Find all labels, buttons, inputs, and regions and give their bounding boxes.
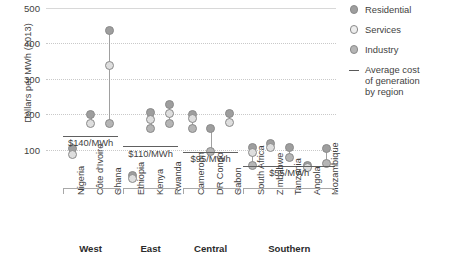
data-point [105, 26, 114, 35]
region-bracket [243, 188, 335, 194]
legend-label-services: Services [361, 24, 401, 35]
region-label: Central [183, 243, 238, 254]
legend-label-industry: Industry [361, 44, 398, 55]
residential-marker-icon [347, 4, 361, 14]
legend-item-services: Services [347, 24, 447, 35]
region-label: East [123, 243, 178, 254]
legend-item-industry: Industry [347, 44, 447, 55]
data-point [188, 124, 197, 133]
legend-label-average: Average cost of generation by region [361, 64, 420, 97]
legend-average-line-2: of generation [365, 75, 420, 86]
legend-average-line-3: by region [365, 86, 404, 97]
legend-average-line-1: Average cost [365, 64, 420, 75]
industry-marker-icon [347, 44, 361, 54]
data-point [146, 115, 155, 124]
data-point [266, 143, 275, 152]
legend-item-residential: Residential [347, 4, 447, 15]
data-point [188, 114, 197, 123]
services-marker-icon [347, 24, 361, 34]
data-point [165, 100, 174, 109]
data-point [285, 143, 294, 152]
data-point [165, 109, 174, 118]
region-average-label: $140/MWh [63, 137, 118, 148]
y-tick-400: 400 [10, 38, 40, 49]
y-tick-200: 200 [10, 109, 40, 120]
region-label: West [63, 243, 118, 254]
chart-legend: Residential Services Industry Average co… [347, 4, 447, 106]
region-label: Southern [243, 243, 335, 254]
y-tick-500: 500 [10, 3, 40, 14]
legend-label-residential: Residential [361, 4, 411, 15]
legend-item-average: Average cost of generation by region [347, 64, 447, 97]
data-point [165, 119, 174, 128]
data-point [146, 124, 155, 133]
region-bracket [183, 188, 238, 194]
region-bracket [63, 188, 118, 194]
data-point [105, 119, 114, 128]
region-average-label: $110/MWh [123, 148, 178, 159]
data-point [225, 118, 234, 127]
y-tick-300: 300 [10, 74, 40, 85]
data-point [105, 61, 114, 70]
region-average-label: $95/MWh [183, 153, 238, 164]
chart-root: Dollars per MWh (2013) 500 400 300 200 1… [0, 0, 449, 261]
region-bracket [123, 188, 178, 194]
y-tick-100: 100 [10, 145, 40, 156]
data-point [225, 109, 234, 118]
data-point [68, 150, 77, 159]
data-stem [109, 30, 110, 123]
data-point [86, 110, 95, 119]
data-point [206, 124, 215, 133]
data-point [86, 119, 95, 128]
average-line-icon [347, 64, 361, 71]
